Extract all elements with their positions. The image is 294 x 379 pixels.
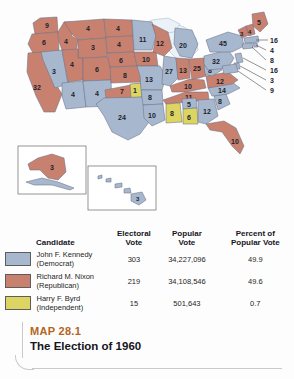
state-value-ok: 7 — [120, 88, 124, 95]
state-nj — [235, 53, 243, 63]
state-ma — [244, 36, 259, 43]
leader-value-ct: 8 — [270, 57, 274, 64]
state-value-in: 13 — [179, 67, 187, 74]
color-swatch-nixon — [5, 274, 31, 288]
state-value-oh: 25 — [193, 65, 201, 72]
header-electoral-vote: Electoral Vote — [111, 228, 158, 248]
state-value-ak: 3 — [50, 164, 54, 171]
state-value-mt: 4 — [86, 25, 90, 32]
header-percent-line1: Percent of — [236, 229, 275, 238]
state-value-mn: 11 — [139, 36, 147, 43]
header-popular-vote: Popular Vote — [157, 228, 216, 248]
state-value-nv: 3 — [52, 68, 56, 75]
state-value-ca: 32 — [33, 84, 41, 91]
header-popular-vote-line2: Vote — [179, 238, 196, 247]
header-candidate: Candidate — [0, 228, 111, 248]
leader-value-ri: 4 — [270, 47, 274, 54]
state-ri — [253, 43, 258, 47]
color-swatch-byrd — [5, 296, 31, 310]
candidate-name-byrd: Harry F. Byrd (Independent) — [34, 292, 110, 314]
state-value-ut: 4 — [70, 61, 74, 68]
us-electoral-map: 9 6 32 3 4 4 3 4 6 4 4 4 — [0, 0, 294, 228]
state-value-tx: 24 — [118, 114, 126, 121]
state-value-mi: 20 — [179, 42, 187, 49]
state-value-id: 4 — [64, 38, 68, 45]
popular-vote-nixon: 34,108,546 — [157, 270, 216, 292]
state-value-ok-split: 1 — [133, 87, 137, 94]
popular-vote-byrd: 501,643 — [157, 292, 216, 314]
electoral-vote-byrd: 15 — [111, 292, 158, 314]
state-value-al-kennedy: 5 — [187, 101, 191, 108]
candidate-name-line2: (Independent) — [36, 303, 108, 312]
state-sc — [214, 94, 230, 110]
state-value-ga: 12 — [203, 108, 211, 115]
header-popular-vote-line1: Popular — [172, 229, 202, 238]
hawaii-island-4 — [124, 188, 131, 193]
election-map-figure: 9 6 32 3 4 4 3 4 6 4 4 4 — [0, 0, 294, 379]
candidate-name-line2: (Republican) — [36, 281, 108, 290]
state-value-al-byrd: 6 — [187, 114, 191, 121]
swatch-cell-nixon — [0, 270, 34, 292]
table-header-row: Candidate Electoral Vote Popular Vote Pe… — [0, 228, 294, 248]
candidate-name-kennedy: John F. Kennedy (Democrat) — [34, 248, 110, 270]
hawaii-island-3 — [115, 183, 122, 188]
state-value-ar: 8 — [148, 94, 152, 101]
state-value-me: 5 — [257, 19, 261, 26]
state-value-pa: 32 — [212, 58, 220, 65]
caption-baseline-rule — [32, 368, 282, 369]
table-row: John F. Kennedy (Democrat) 303 34,227,09… — [0, 248, 294, 270]
color-swatch-kennedy — [5, 252, 31, 266]
state-value-wi: 12 — [156, 40, 164, 47]
hawaii-island-1 — [98, 175, 102, 179]
state-value-ks: 8 — [123, 72, 127, 79]
percent-byrd: 0.7 — [217, 292, 294, 314]
percent-nixon: 49.6 — [217, 270, 294, 292]
state-ct — [242, 43, 253, 49]
leader-value-nj: 16 — [270, 67, 278, 74]
state-value-ny: 45 — [219, 40, 227, 47]
state-value-wy: 3 — [91, 44, 95, 51]
electoral-vote-kennedy: 303 — [111, 248, 158, 270]
electoral-vote-nixon: 219 — [111, 270, 158, 292]
percent-kennedy: 49.9 — [217, 248, 294, 270]
hawaii-island-2 — [106, 178, 111, 182]
header-percent-line2: Popular Vote — [231, 238, 280, 247]
candidate-name-line1: Harry F. Byrd — [36, 294, 80, 303]
state-md — [222, 64, 238, 74]
state-value-sc: 8 — [218, 98, 222, 105]
us-map-svg: 9 6 32 3 4 4 3 4 6 4 4 4 — [0, 0, 294, 228]
map-number: MAP 28.1 — [30, 325, 81, 337]
state-value-wa: 9 — [45, 22, 49, 29]
state-value-nc: 14 — [218, 87, 226, 94]
state-value-ia: 10 — [142, 56, 150, 63]
state-value-fl: 10 — [231, 138, 239, 145]
state-value-ne: 6 — [119, 57, 123, 64]
candidate-name-line1: John F. Kennedy — [36, 250, 92, 259]
swatch-cell-byrd — [0, 292, 34, 314]
state-value-nd: 4 — [116, 25, 120, 32]
state-value-sd: 4 — [117, 41, 121, 48]
leader-line-nj — [243, 58, 266, 70]
candidate-name-line1: Richard M. Nixon — [36, 272, 94, 281]
state-value-la: 10 — [148, 112, 156, 119]
header-electoral-vote-line1: Electoral — [117, 229, 151, 238]
state-value-az: 4 — [71, 91, 75, 98]
header-electoral-vote-line2: Vote — [126, 238, 143, 247]
candidate-name-line2: (Democrat) — [36, 259, 108, 268]
leader-value-de: 3 — [270, 77, 274, 84]
candidate-name-nixon: Richard M. Nixon (Republican) — [34, 270, 110, 292]
leader-value-md: 9 — [270, 87, 274, 94]
caption-vertical-rule — [22, 322, 23, 358]
hawaii-inset-box — [88, 166, 156, 210]
table-row: Richard M. Nixon (Republican) 219 34,108… — [0, 270, 294, 292]
state-ms — [166, 103, 182, 123]
state-value-or: 6 — [42, 39, 46, 46]
state-value-il: 27 — [165, 68, 173, 75]
popular-vote-kennedy: 34,227,096 — [157, 248, 216, 270]
state-value-nm: 4 — [95, 90, 99, 97]
state-value-va: 12 — [216, 78, 224, 85]
leader-line-md — [238, 71, 266, 90]
state-value-mo: 13 — [145, 76, 153, 83]
leader-value-ma: 16 — [270, 37, 278, 44]
map-caption: MAP 28.1 The Election of 1960 — [0, 322, 294, 379]
